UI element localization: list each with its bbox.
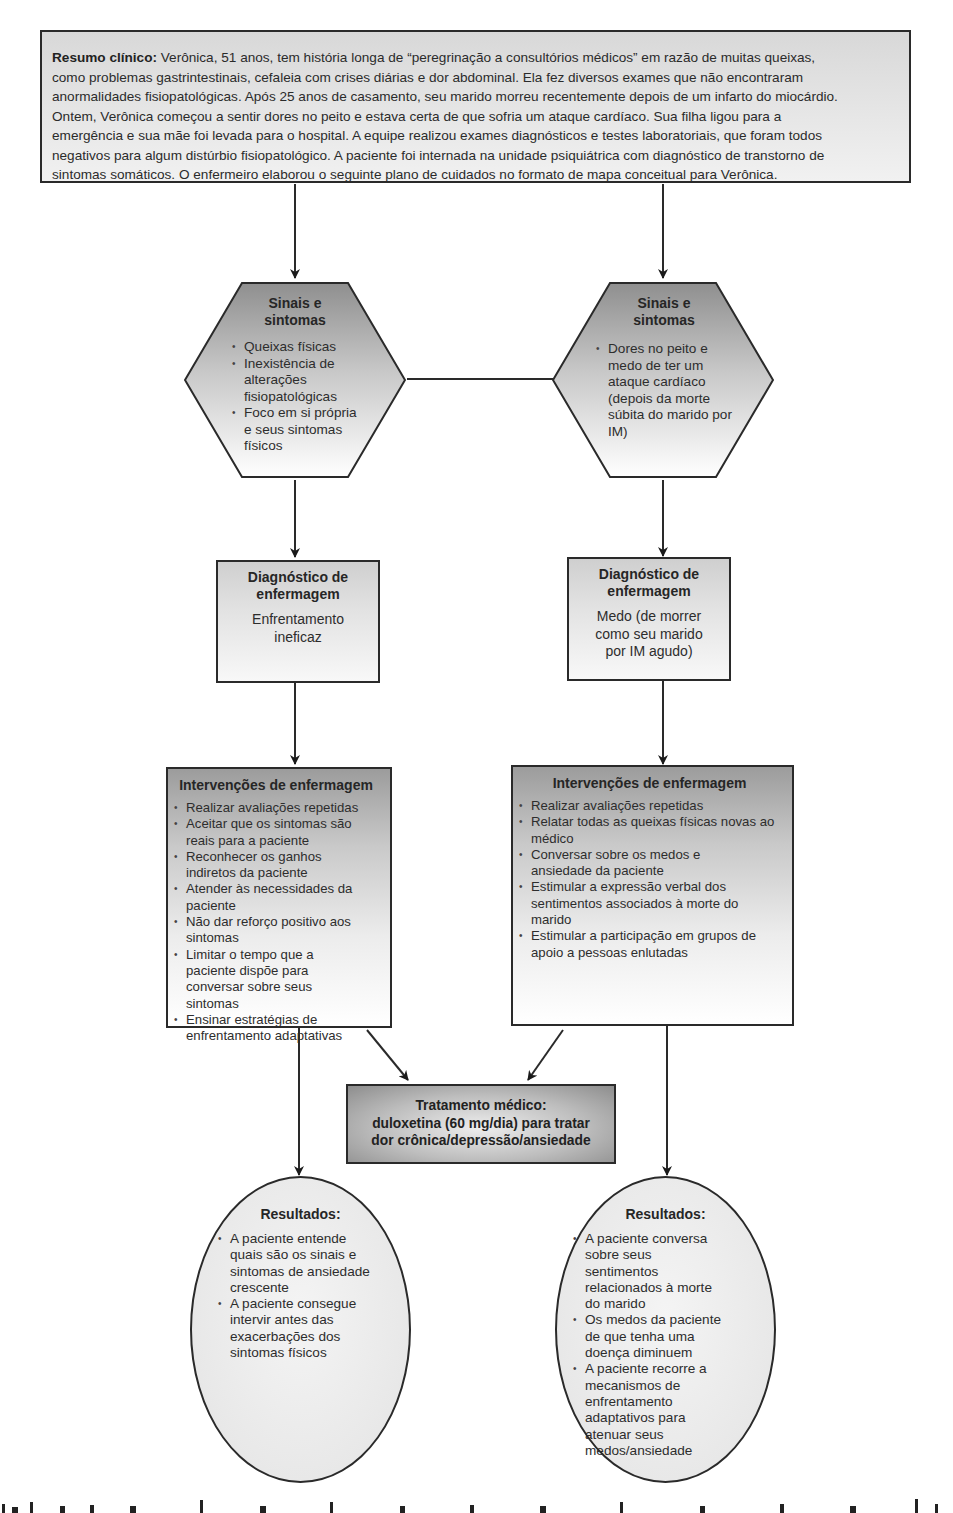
right-signs-title-1: Sinais e (574, 295, 754, 312)
right-diagnosis-title-2: enfermagem (575, 583, 723, 600)
summary-line-7: sintomas somáticos. O enfermeiro elaboro… (52, 165, 895, 185)
summary-line-1: Resumo clínico: Verônica, 51 anos, tem h… (52, 48, 895, 68)
right-diagnosis-title-1: Diagnóstico de (575, 566, 723, 583)
medical-treatment-box: Tratamento médico: duloxetina (60 mg/dia… (346, 1084, 616, 1164)
left-diagnosis-title-1: Diagnóstico de (224, 569, 372, 586)
list-item: Ensinar estratégias de enfrentamento ada… (170, 1012, 351, 1045)
right-interventions-title: Intervenções de enfermagem (515, 775, 784, 792)
list-item: Queixas físicas (228, 339, 384, 356)
right-outcomes-list: A paciente conversa sobre seus sentiment… (557, 1231, 774, 1459)
list-item: A paciente recorre a mecanismos de enfre… (569, 1361, 735, 1459)
summary-line-3: anormalidades fisiopatológicas. Após 25 … (52, 87, 895, 107)
list-item: Limitar o tempo que a paciente dispõe pa… (170, 947, 361, 1012)
arrow-right-interventions-to-treatment (528, 1030, 563, 1080)
summary-line-5: emergência e sua mãe foi levada para o h… (52, 126, 895, 146)
left-signs-title-1: Sinais e (206, 295, 384, 312)
left-outcomes-list: A paciente entende quais são os sinais e… (192, 1231, 409, 1361)
right-signs-list: Dores no peito e medo de ter um ataque c… (592, 341, 754, 440)
left-interventions-title: Intervenções de enfermagem (170, 777, 382, 794)
right-outcomes-oval: Resultados: A paciente conversa sobre se… (555, 1176, 776, 1483)
connectors (0, 0, 953, 1513)
right-interventions-box: Intervenções de enfermagem Realizar aval… (511, 765, 794, 1026)
list-item: Dores no peito e medo de ter um ataque c… (592, 341, 744, 440)
list-item: Atender às necessidades da paciente (170, 881, 382, 914)
summary-line-2: como problemas gastrintestinais, cefalei… (52, 68, 895, 88)
left-interventions-box: Intervenções de enfermagem Realizar aval… (166, 767, 392, 1028)
list-item: Não dar reforço positivo aos sintomas (170, 914, 382, 947)
right-outcomes-title: Resultados: (557, 1206, 774, 1223)
list-item: Estimular a expressão verbal dos sentime… (515, 879, 756, 928)
list-item: Realizar avaliações repetidas (515, 798, 784, 814)
treatment-line-3: dor crônica/depressão/ansiedade (348, 1132, 614, 1150)
list-item: A paciente consegue intervir antes das e… (214, 1296, 365, 1361)
list-item: Conversar sobre os medos e ansiedade da … (515, 847, 731, 880)
clinical-summary-box: Resumo clínico: Verônica, 51 anos, tem h… (40, 30, 911, 183)
list-item: Realizar avaliações repetidas (170, 800, 382, 816)
right-diagnosis-body-3: por IM agudo) (575, 643, 723, 661)
list-item: Aceitar que os sintomas são reais para a… (170, 816, 371, 849)
right-diagnosis-body-1: Medo (de morrer (575, 608, 723, 626)
left-interventions-list: Realizar avaliações repetidas Aceitar qu… (170, 800, 382, 1044)
left-diagnosis-body-2: ineficaz (224, 629, 372, 647)
list-item: Estimular a participação em grupos de ap… (515, 928, 771, 961)
summary-line-4: Ontem, Verônica começou a sentir dores n… (52, 107, 895, 127)
left-signs-title-2: sintomas (206, 312, 384, 329)
left-diagnosis-title-2: enfermagem (224, 586, 372, 603)
right-signs-title-2: sintomas (574, 312, 754, 329)
right-interventions-list: Realizar avaliações repetidas Relatar to… (515, 798, 784, 961)
list-item: A paciente entende quais são os sinais e… (214, 1231, 370, 1296)
left-signs-hexagon: Sinais e sintomas Queixas físicas Inexis… (184, 282, 406, 478)
list-item: A paciente conversa sobre seus sentiment… (569, 1231, 725, 1312)
treatment-line-2: duloxetina (60 mg/dia) para tratar (348, 1115, 614, 1133)
list-item: Relatar todas as queixas físicas novas a… (515, 814, 786, 847)
list-item: Foco em si própria e seus sintomas físic… (228, 405, 364, 455)
cropped-text-fragment (0, 1490, 953, 1513)
list-item: Inexistência de alterações fisiopatológi… (228, 356, 354, 406)
list-item: Reconhecer os ganhos indiretos da pacien… (170, 849, 361, 882)
list-item: Os medos da paciente de que tenha uma do… (569, 1312, 735, 1361)
left-signs-list: Queixas físicas Inexistência de alteraçõ… (228, 339, 384, 455)
right-diagnosis-body-2: como seu marido (575, 626, 723, 644)
left-outcomes-oval: Resultados: A paciente entende quais são… (190, 1176, 411, 1483)
summary-line-6: negativos para algum distúrbio fisiopato… (52, 146, 895, 166)
left-outcomes-title: Resultados: (192, 1206, 409, 1223)
summary-label: Resumo clínico: (52, 50, 157, 65)
right-diagnosis-box: Diagnóstico de enfermagem Medo (de morre… (567, 557, 731, 681)
treatment-line-1: Tratamento médico: (348, 1097, 614, 1115)
left-diagnosis-body-1: Enfrentamento (224, 611, 372, 629)
right-signs-hexagon: Sinais e sintomas Dores no peito e medo … (552, 282, 774, 478)
left-diagnosis-box: Diagnóstico de enfermagem Enfrentamento … (216, 560, 380, 683)
